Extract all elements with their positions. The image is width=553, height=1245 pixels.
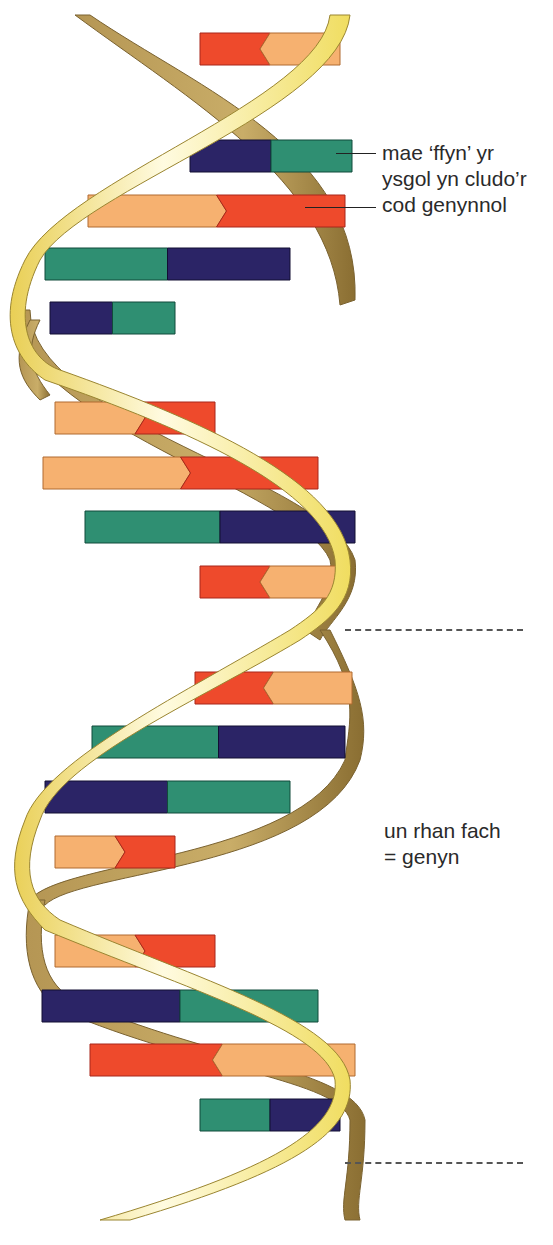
rung-annotation: mae ‘ffyn’ yr ysgol yn cludo’r cod genyn…: [382, 140, 527, 218]
gene-boundary-bottom: [345, 1162, 523, 1164]
base-navy: [219, 726, 346, 758]
base-orange: [55, 836, 125, 868]
base-red: [217, 195, 346, 227]
base-pair-rungs: [42, 33, 355, 1131]
base-navy: [168, 248, 291, 280]
base-orange: [43, 457, 191, 489]
base-red: [90, 1044, 223, 1076]
base-green: [85, 511, 220, 543]
base-navy: [50, 302, 113, 334]
rung-annotation-line-1: mae ‘ffyn’ yr: [382, 140, 527, 166]
base-green: [271, 140, 352, 172]
base-green: [168, 781, 291, 813]
gene-annotation-line-1: un rhan fach: [384, 818, 501, 844]
base-green: [45, 248, 168, 280]
base-green: [113, 302, 176, 334]
gene-annotation: un rhan fach = genyn: [384, 818, 501, 870]
rung-annotation-line-2: ysgol yn cludo’r: [382, 166, 527, 192]
base-orange: [260, 566, 340, 598]
base-navy: [42, 990, 180, 1022]
leader-line-red: [305, 207, 376, 208]
gene-boundary-top: [345, 629, 523, 631]
leader-line-green: [336, 153, 376, 154]
base-green: [200, 1099, 270, 1131]
gene-annotation-line-2: = genyn: [384, 844, 501, 870]
rung-annotation-line-3: cod genynnol: [382, 192, 527, 218]
base-orange: [264, 672, 353, 704]
